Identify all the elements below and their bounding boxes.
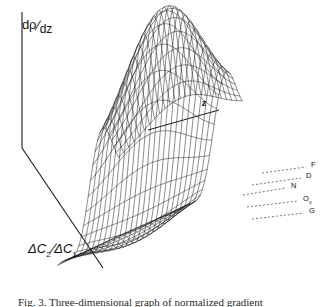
y-axis-label: dρ/dz (22, 19, 52, 32)
leader-line-ov (247, 201, 298, 207)
iso-label-n: N (291, 182, 297, 190)
iso-label-f: F (311, 161, 316, 169)
figure-caption: Fig. 3. Three-dimensional graph of norma… (18, 296, 318, 307)
iso-label-d: D (306, 172, 312, 180)
figure-3-surface-plot: dρ/dz z ΔC2/ΔC1 FDNOvG Fig. 3. Three-dim… (0, 0, 328, 307)
leader-line-n (243, 188, 286, 195)
z-axis-label: z (202, 97, 206, 108)
y-axis-denominator: dz (40, 22, 52, 36)
x-axis-sub2: 1 (72, 250, 76, 259)
mesh-lines-depth (58, 6, 242, 265)
x-axis-prefix: ΔC (28, 241, 46, 256)
surface-wireframe-canvas (0, 0, 328, 307)
iso-label-g: G (309, 207, 315, 215)
leader-line-f (262, 167, 306, 173)
leader-line-g (252, 213, 304, 219)
iso-leader-lines (243, 167, 306, 219)
x-axis-mid: ΔC (54, 241, 72, 256)
x-axis-label: ΔC2/ΔC1 (28, 242, 77, 259)
iso-label-ov: Ov (303, 195, 312, 205)
